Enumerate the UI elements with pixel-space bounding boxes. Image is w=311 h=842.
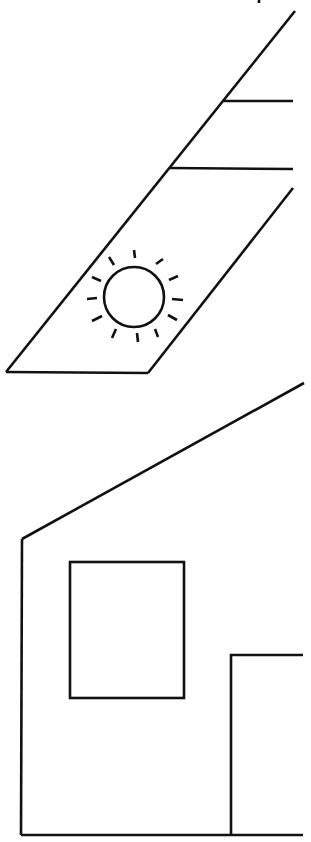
illustration-canvas <box>0 0 311 842</box>
solar-panel-bottom-edge <box>6 372 148 373</box>
sun-ray <box>134 250 135 258</box>
background <box>0 0 311 842</box>
sun-ray <box>87 298 97 299</box>
solar-panel-rail-lower <box>170 168 293 169</box>
house-left-wall <box>21 539 22 835</box>
sun-ray <box>172 299 183 300</box>
sun-ray <box>137 333 138 342</box>
